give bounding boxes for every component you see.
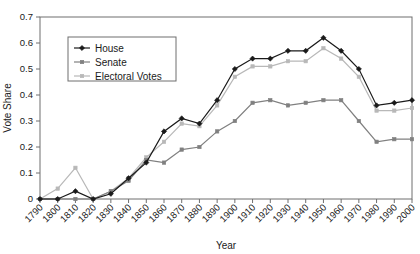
data-point-marker [233,75,236,78]
y-tick-label: 0.5 [20,63,33,74]
data-point-marker [73,189,78,194]
y-tick-label: 0.1 [20,167,33,178]
data-point-marker [198,145,201,148]
x-tick-label: 1790 [22,202,45,225]
data-point-marker [232,66,237,71]
data-point-marker [80,74,83,77]
data-point-marker [393,138,396,141]
x-tick-label: 1940 [288,202,311,225]
x-tick-label: 1910 [235,202,258,225]
data-point-marker [56,187,59,190]
y-axis-ticks: 00.10.20.30.40.50.60.7 [20,11,40,204]
data-point-marker [393,109,396,112]
data-point-marker [339,99,342,102]
x-tick-label: 1840 [111,202,134,225]
data-point-marker [215,104,218,107]
y-axis-title: Vote Share [2,83,13,133]
data-point-marker [322,99,325,102]
data-point-marker [269,99,272,102]
x-axis-ticks: 1790180018101820183018401850186018701880… [22,199,417,224]
data-point-marker [74,197,77,200]
chart-figure: 00.10.20.30.40.50.60.7 17901800181018201… [0,0,420,254]
x-tick-label: 1890 [199,202,222,225]
data-point-marker [357,119,360,122]
x-tick-label: 1980 [359,202,382,225]
data-point-marker [304,101,307,104]
data-point-marker [409,98,414,103]
x-tick-label: 1920 [252,202,275,225]
data-point-marker [286,60,289,63]
x-tick-label: 1860 [146,202,169,225]
x-tick-label: 1950 [306,202,329,225]
data-point-marker [285,48,290,53]
data-point-marker [375,140,378,143]
data-point-marker [180,122,183,125]
x-tick-label: 1930 [270,202,293,225]
data-point-marker [162,140,165,143]
data-point-marker [74,166,77,169]
x-tick-label: 1820 [75,202,98,225]
x-tick-label: 1800 [40,202,63,225]
legend-item-label: House [95,43,124,54]
data-point-marker [322,47,325,50]
y-tick-label: 0.2 [20,141,33,152]
y-tick-label: 0.6 [20,37,33,48]
data-point-marker [304,60,307,63]
x-tick-label: 1810 [58,202,81,225]
data-point-marker [233,119,236,122]
x-tick-label: 1970 [341,202,364,225]
x-tick-label: 1900 [217,202,240,225]
data-point-marker [269,65,272,68]
data-point-marker [410,106,413,109]
data-point-marker [375,109,378,112]
data-point-marker [215,130,218,133]
data-point-marker [251,65,254,68]
x-tick-label: 1990 [376,202,399,225]
vote-share-line-chart: 00.10.20.30.40.50.60.7 17901800181018201… [0,0,420,254]
data-point-marker [268,56,273,61]
x-tick-label: 1960 [323,202,346,225]
x-tick-label: 1870 [164,202,187,225]
data-point-marker [80,60,83,63]
x-tick-label: 2000 [394,202,417,225]
x-axis-title: Year [216,240,237,251]
x-tick-label: 1850 [128,202,151,225]
data-point-marker [392,100,397,105]
data-point-marker [286,104,289,107]
y-tick-label: 0.3 [20,115,33,126]
chart-legend: HouseSenateElectoral Votes [68,37,176,82]
x-tick-label: 1880 [182,202,205,225]
data-point-marker [410,138,413,141]
data-point-marker [339,57,342,60]
legend-item-label: Electoral Votes [95,71,162,82]
y-tick-label: 0.4 [20,89,33,100]
legend-item-label: Senate [95,57,127,68]
data-point-marker [251,101,254,104]
y-tick-label: 0.7 [20,11,33,22]
data-point-marker [180,148,183,151]
x-tick-label: 1830 [93,202,116,225]
data-point-marker [357,75,360,78]
series-senate [38,99,413,201]
series-line [40,100,412,199]
data-point-marker [250,56,255,61]
y-tick-label: 0 [28,193,33,204]
data-point-marker [162,161,165,164]
